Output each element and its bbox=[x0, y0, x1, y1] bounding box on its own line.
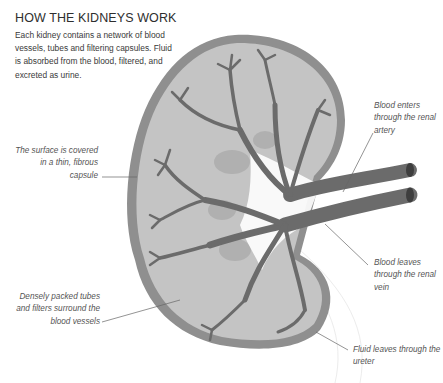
leader-vein bbox=[325, 224, 368, 265]
page-title: HOW THE KIDNEYS WORK bbox=[15, 11, 177, 25]
label-renal-artery: Blood enters through the renal artery bbox=[374, 100, 440, 137]
label-renal-vein: Blood leaves through the renal vein bbox=[374, 257, 440, 294]
leader-ureter bbox=[316, 332, 348, 350]
label-dense-tubes: Densely packed tubes and filters surroun… bbox=[10, 291, 100, 328]
artery-end bbox=[406, 163, 414, 177]
intro-text: Each kidney contains a network of blood … bbox=[15, 29, 175, 82]
label-ureter: Fluid leaves through the ureter bbox=[353, 344, 443, 369]
vessel-ends bbox=[406, 163, 414, 203]
vein-end bbox=[406, 188, 414, 203]
label-surface: The surface is covered in a thin, fibrou… bbox=[10, 145, 98, 182]
